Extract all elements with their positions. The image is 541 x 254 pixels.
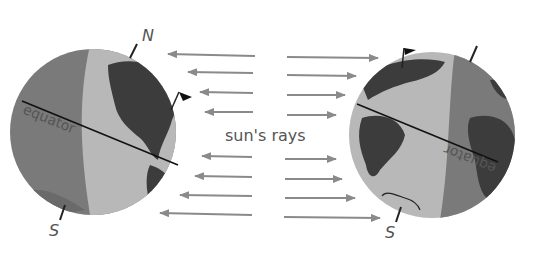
- sun-rays-label: sun's rays: [225, 126, 306, 145]
- seasons-diagram: equator N S sun's rays: [0, 0, 541, 254]
- left-flag-icon: [171, 92, 192, 110]
- right-axis-north: [470, 46, 477, 62]
- diagram-canvas: equator N S sun's rays: [0, 0, 541, 254]
- left-axis-north: [130, 44, 137, 58]
- left-south-label: S: [49, 221, 59, 240]
- left-globe: equator N S: [10, 26, 200, 240]
- right-south-label: S: [385, 223, 395, 242]
- right-globe: equator S: [349, 46, 520, 242]
- left-north-label: N: [142, 26, 154, 45]
